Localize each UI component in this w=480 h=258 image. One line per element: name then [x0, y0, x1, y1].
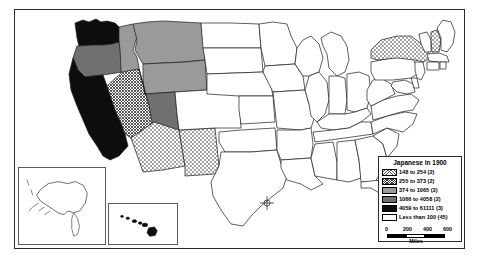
- state-KS: [239, 96, 275, 124]
- map-frame: Japanese in 1900 148 to 254 (2) 255 to 3…: [14, 9, 465, 249]
- scale-segment: [425, 234, 445, 238]
- legend-row[interactable]: Less than 100 (45): [382, 213, 458, 222]
- scale-bar: 0 200 400 600 Miles: [381, 226, 461, 244]
- state-MN: [259, 22, 297, 66]
- alaska-inset: [18, 167, 106, 245]
- state-NJ: [415, 62, 425, 80]
- scale-units-label: Miles: [387, 238, 445, 244]
- state-WY: [143, 60, 207, 94]
- legend-swatch: [382, 205, 397, 212]
- legend-swatch: [382, 214, 397, 221]
- state-CT: [427, 62, 439, 70]
- state-MI: [321, 32, 349, 76]
- state-OK: [219, 128, 277, 152]
- state-NM: [179, 128, 219, 176]
- legend-row[interactable]: 255 to 373 (2): [382, 177, 458, 186]
- legend-label: Less than 100 (45): [399, 214, 448, 221]
- state-NE: [207, 72, 273, 96]
- state-CO: [175, 90, 241, 130]
- legend-swatch: [382, 187, 397, 194]
- state-OR: [73, 42, 122, 77]
- legend-swatch: [382, 169, 397, 176]
- scale-segment: [406, 234, 425, 238]
- alaska-outline: [37, 182, 88, 215]
- scale-segment: [387, 234, 406, 238]
- legend-label: 374 to 1065 (3): [399, 187, 438, 194]
- legend-label: 148 to 254 (2): [399, 169, 434, 176]
- hawaii-inset: [108, 203, 178, 245]
- scale-tick: 400: [423, 226, 432, 232]
- legend-row[interactable]: 4059 to 61111 (3): [382, 204, 458, 213]
- scale-bar-segments: [381, 234, 461, 238]
- state-AR: [277, 128, 313, 160]
- legend-swatch: [382, 178, 397, 185]
- state-MT: [133, 21, 205, 64]
- alaska-panhandle: [72, 213, 80, 236]
- state-MD: [391, 80, 415, 94]
- scale-tick-labels: 0 200 400 600: [381, 226, 461, 233]
- state-WI: [295, 36, 323, 76]
- legend-row[interactable]: 148 to 254 (2): [382, 168, 458, 177]
- legend-label: 4059 to 61111 (3): [399, 205, 443, 212]
- state-IN: [329, 76, 347, 114]
- legend-label: 1066 to 4058 (2): [399, 196, 441, 203]
- state-WA: [75, 19, 119, 46]
- legend-title: Japanese in 1900: [382, 159, 458, 167]
- state-MA: [427, 53, 449, 62]
- legend-row[interactable]: 1066 to 4058 (2): [382, 195, 458, 204]
- hawaii-islands: [121, 215, 158, 236]
- scale-tick: 200: [403, 226, 412, 232]
- state-MS: [311, 142, 337, 180]
- state-RI: [440, 62, 446, 69]
- state-SD: [203, 48, 263, 74]
- state-ND: [201, 23, 261, 48]
- scale-tick: 600: [443, 226, 452, 232]
- legend-swatch: [382, 196, 397, 203]
- map-screenshot: Japanese in 1900 148 to 254 (2) 255 to 3…: [0, 0, 480, 258]
- legend-row[interactable]: 374 to 1065 (3): [382, 186, 458, 195]
- scale-tick: 0: [385, 226, 388, 232]
- state-TX: [211, 150, 287, 226]
- legend-label: 255 to 373 (2): [399, 178, 434, 185]
